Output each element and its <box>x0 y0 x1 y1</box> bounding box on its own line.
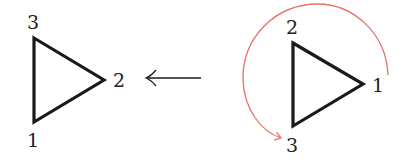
right-label-top: 2 <box>286 16 298 38</box>
right-triangle: 2 1 3 <box>286 16 384 156</box>
long-left-arrow-icon <box>146 70 201 86</box>
left-label-right: 2 <box>113 69 125 91</box>
left-label-top: 3 <box>27 11 39 33</box>
rotation-arc-icon <box>243 4 388 138</box>
left-label-bottom: 1 <box>27 129 39 151</box>
left-triangle: 3 2 1 <box>27 11 125 151</box>
right-label-right: 1 <box>372 74 384 96</box>
right-triangle-shape <box>293 43 363 126</box>
triangle-rotation-diagram: 3 2 1 2 1 3 <box>0 0 404 162</box>
left-triangle-shape <box>34 38 104 122</box>
right-label-bottom: 3 <box>286 134 298 156</box>
